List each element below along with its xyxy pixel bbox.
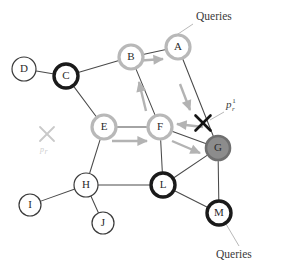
edge-g-m <box>218 161 219 199</box>
edge-c-e <box>74 87 96 116</box>
node-l-label: L <box>160 178 167 190</box>
pr1-superscript: 1 <box>232 97 236 105</box>
annotation-queries-bottom: Queries <box>216 248 252 260</box>
node-h-label: H <box>82 178 90 190</box>
edge-b-a <box>144 50 165 54</box>
node-b[interactable]: B <box>119 45 143 69</box>
node-j-label: J <box>101 216 106 228</box>
edge-h-j <box>91 196 98 212</box>
node-i-label: I <box>28 198 32 210</box>
annotation-pr-faint: p r <box>39 145 49 156</box>
node-a-label: A <box>174 40 182 52</box>
edge-e-h <box>90 140 100 173</box>
node-e[interactable]: E <box>92 115 116 139</box>
node-j[interactable]: J <box>92 212 114 234</box>
edge-f-g <box>173 132 206 144</box>
node-h[interactable]: H <box>74 173 98 197</box>
pr-faint-base-symbol: p <box>39 145 44 154</box>
edge-d-c <box>36 71 52 74</box>
node-b-label: B <box>127 50 134 62</box>
figure-container: ABCDEFGHIJLM Queries Queries p r 1 p r <box>0 0 283 264</box>
arrow-a-to-g <box>180 84 190 110</box>
arrow-f-to-g <box>172 141 200 153</box>
cross-faint-peer <box>40 127 54 141</box>
leader-queries-bottom <box>226 224 239 246</box>
pr-faint-subscript: r <box>45 147 49 156</box>
node-g-label: G <box>214 141 222 153</box>
annotation-pr1: p r 1 <box>225 97 236 113</box>
pr1-base-symbol: p <box>225 98 232 110</box>
graph-canvas: ABCDEFGHIJLM Queries Queries p r 1 p r <box>0 0 283 264</box>
node-c[interactable]: C <box>54 64 78 88</box>
node-g[interactable]: G <box>206 136 230 160</box>
edge-h-i <box>41 189 74 201</box>
node-m[interactable]: M <box>207 201 231 225</box>
node-m-label: M <box>214 206 224 218</box>
cross-marker-layer <box>40 116 211 142</box>
node-layer: ABCDEFGHIJLM <box>12 35 231 234</box>
node-e-label: E <box>101 120 108 132</box>
node-d[interactable]: D <box>12 57 36 81</box>
node-d-label: D <box>20 62 28 74</box>
node-f-label: F <box>157 120 163 132</box>
pr1-subscript: r <box>232 105 235 113</box>
node-l[interactable]: L <box>151 173 175 197</box>
edge-f-l <box>161 140 163 171</box>
edge-l-g <box>174 155 207 177</box>
node-a[interactable]: A <box>166 35 190 59</box>
node-f[interactable]: F <box>148 115 172 139</box>
leader-pr1 <box>210 112 224 120</box>
annotation-queries-top: Queries <box>196 10 232 22</box>
arrow-f-to-b <box>139 82 146 111</box>
queries-bottom-label: Queries <box>216 248 252 260</box>
edge-l-m <box>175 191 207 207</box>
node-i[interactable]: I <box>19 194 41 216</box>
queries-top-label: Queries <box>196 10 232 22</box>
node-c-label: C <box>62 69 69 81</box>
edge-c-b <box>79 61 118 72</box>
